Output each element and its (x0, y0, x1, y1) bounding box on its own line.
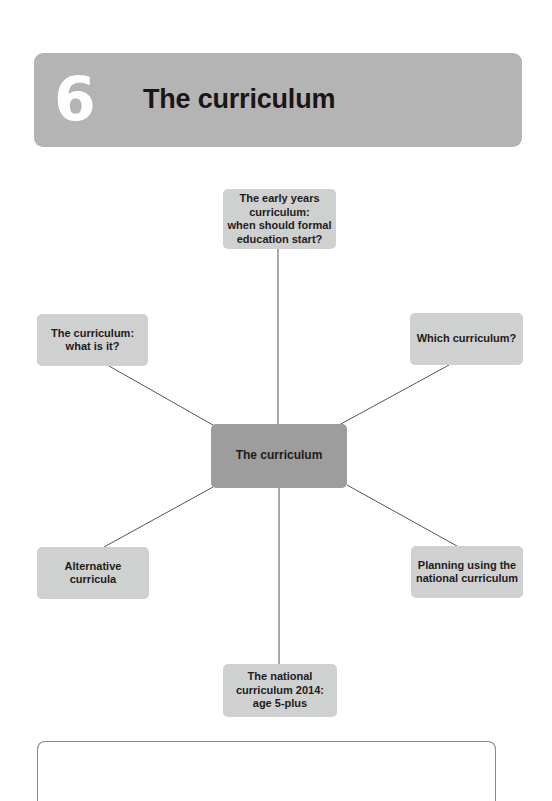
node-national-curriculum-2014: The national curriculum 2014: age 5-plus (223, 664, 337, 717)
node-line: what is it? (51, 340, 134, 354)
node-line: The national (236, 670, 324, 684)
node-alternative-curricula: Alternative curricula (37, 547, 149, 599)
connector-top-right (339, 365, 449, 425)
center-node: The curriculum (211, 424, 347, 488)
center-node-label: The curriculum (236, 449, 323, 463)
node-line: curriculum 2014: (236, 684, 324, 698)
node-line: The early years (228, 192, 332, 206)
node-line: national curriculum (416, 572, 518, 586)
node-line: The curriculum: (51, 327, 134, 341)
node-line: Planning using the (416, 559, 518, 573)
node-planning: Planning using the national curriculum (411, 546, 523, 598)
node-early-years: The early years curriculum: when should … (223, 189, 336, 249)
node-line: curricula (65, 573, 122, 587)
node-line: when should formal (228, 219, 332, 233)
bottom-frame (37, 741, 496, 801)
node-line: education start? (228, 233, 332, 247)
connector-bottom-right (347, 485, 457, 546)
node-line: age 5-plus (236, 697, 324, 711)
node-line: curriculum: (228, 206, 332, 220)
connector-bottom-left (104, 487, 213, 547)
node-which-curriculum: Which curriculum? (410, 313, 523, 365)
node-what-is-it: The curriculum: what is it? (37, 314, 148, 366)
node-line: Which curriculum? (417, 332, 517, 346)
node-line: Alternative (65, 560, 122, 574)
connector-top-left (109, 366, 213, 425)
